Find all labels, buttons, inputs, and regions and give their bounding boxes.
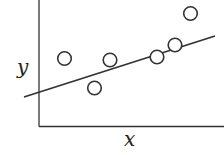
scatter-plot: y x — [0, 0, 224, 155]
data-point — [88, 81, 102, 95]
data-point — [168, 38, 182, 52]
data-point — [150, 50, 164, 64]
y-axis-label: y — [16, 55, 29, 79]
data-point — [184, 7, 198, 21]
data-point — [103, 53, 117, 67]
regression-line — [24, 36, 215, 97]
data-points — [58, 7, 198, 95]
data-point — [58, 52, 72, 66]
x-axis-label: x — [124, 127, 135, 151]
